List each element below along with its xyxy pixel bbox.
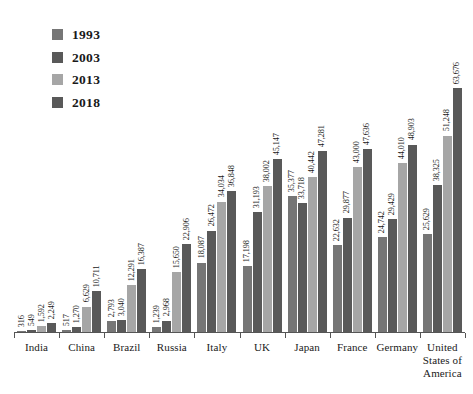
bar-japan-2013[interactable]: [308, 177, 317, 332]
x-axis-label-india: India: [14, 341, 59, 380]
x-axis-line: [14, 332, 465, 339]
bar-slot: 51,248: [443, 4, 452, 332]
bar-brazil-2013[interactable]: [127, 285, 136, 332]
x-axis-label-germany: Germany: [375, 341, 420, 380]
bar-slot: 22,632: [333, 4, 342, 332]
bar-china-2018[interactable]: [92, 291, 101, 332]
bar-value-label: 63,676: [454, 62, 462, 84]
bar-brazil-2003[interactable]: [117, 320, 126, 332]
bar-slot: 29,877: [343, 4, 352, 332]
bar-slot: 1,592: [37, 4, 46, 332]
axis-tick: [375, 333, 376, 338]
bar-slot: 63,676: [453, 4, 462, 332]
bar-slot: 549: [27, 4, 36, 332]
bar-value-label: 16,387: [138, 243, 146, 265]
bar-value-label: 31,193: [253, 186, 261, 208]
bar-slot: 40,442: [308, 4, 317, 332]
bar-value-label: 22,632: [333, 219, 341, 241]
bar-italy-1993[interactable]: [197, 263, 206, 332]
x-axis-label-uk: UK: [239, 341, 284, 380]
bar-france-2003[interactable]: [343, 218, 352, 332]
bar-value-label: 34,034: [218, 175, 226, 197]
bar-slot: 31,193: [253, 4, 262, 332]
bar-value-label: 45,147: [273, 133, 281, 155]
bar-value-label: 10,711: [93, 265, 101, 287]
bar-brazil-1993[interactable]: [107, 321, 116, 332]
bar-uk-2018[interactable]: [273, 159, 282, 332]
bar-value-label: 51,248: [444, 109, 452, 131]
bar-value-label: 517: [63, 314, 71, 326]
bar-united-states-of-america-2003[interactable]: [433, 185, 442, 332]
legend-item-2003[interactable]: 2003: [52, 51, 100, 65]
x-axis-category-labels: IndiaChinaBrazilRussiaItalyUKJapanFrance…: [14, 341, 465, 380]
legend-swatch-2003: [52, 52, 63, 63]
bar-france-1993[interactable]: [333, 245, 342, 332]
axis-tick: [240, 333, 241, 338]
bar-italy-2003[interactable]: [207, 231, 216, 332]
bar-slot: 29,429: [388, 4, 397, 332]
bar-slot: 36,848: [227, 4, 236, 332]
bar-russia-2003[interactable]: [162, 321, 171, 332]
bar-united-states-of-america-2018[interactable]: [453, 88, 462, 332]
bar-france-2013[interactable]: [353, 167, 362, 332]
bar-group: 18,08726,47234,03436,848: [194, 4, 239, 332]
bar-slot: 47,636: [363, 4, 372, 332]
bar-slot: 34,034: [217, 4, 226, 332]
bar-japan-1993[interactable]: [288, 196, 297, 332]
axis-tick: [330, 333, 331, 338]
bar-slot: 45,147: [273, 4, 282, 332]
legend-item-2018[interactable]: 2018: [52, 96, 100, 110]
bar-value-label: 2,793: [108, 299, 116, 317]
axis-tick: [59, 333, 60, 338]
bar-germany-1993[interactable]: [378, 237, 387, 332]
legend-swatch-1993: [52, 29, 63, 40]
bar-united-states-of-america-2013[interactable]: [443, 136, 452, 332]
bar-china-2013[interactable]: [82, 307, 91, 332]
bar-india-2018[interactable]: [47, 323, 56, 332]
bar-slot: 12,291: [127, 4, 136, 332]
bar-france-2018[interactable]: [363, 149, 372, 332]
axis-tick: [465, 333, 466, 338]
legend-item-label: 1993: [72, 28, 100, 42]
bar-uk-1993[interactable]: [243, 266, 252, 332]
bar-value-label: 29,429: [389, 193, 397, 215]
bar-russia-2018[interactable]: [182, 244, 191, 332]
x-axis-label-france: France: [330, 341, 375, 380]
bar-uk-2013[interactable]: [263, 186, 272, 332]
bar-slot: 17,198: [243, 4, 252, 332]
bar-uk-2003[interactable]: [253, 212, 262, 332]
bar-value-label: 3,040: [118, 298, 126, 316]
bar-russia-2013[interactable]: [172, 272, 181, 332]
bar-value-label: 44,010: [399, 137, 407, 159]
bar-value-label: 33,718: [298, 177, 306, 199]
bar-value-label: 1,239: [153, 305, 161, 323]
bar-value-label: 6,629: [83, 284, 91, 302]
bar-japan-2003[interactable]: [298, 203, 307, 332]
x-axis-label-united-states-of-america: United States of America: [420, 341, 465, 380]
axis-tick: [14, 333, 15, 338]
bar-value-label: 47,636: [363, 123, 371, 145]
bar-value-label: 15,650: [173, 246, 181, 268]
bar-brazil-2018[interactable]: [137, 269, 146, 332]
bar-united-states-of-america-1993[interactable]: [423, 234, 432, 332]
legend-item-1993[interactable]: 1993: [52, 28, 100, 42]
axis-tick: [104, 333, 105, 338]
bar-germany-2003[interactable]: [388, 219, 397, 332]
axis-tick: [285, 333, 286, 338]
bar-value-label: 22,906: [183, 218, 191, 240]
bar-value-label: 40,442: [308, 151, 316, 173]
bar-italy-2018[interactable]: [227, 191, 236, 332]
bar-germany-2013[interactable]: [398, 163, 407, 332]
bar-group: 2,7933,04012,29116,387: [104, 4, 149, 332]
bar-slot: 35,377: [288, 4, 297, 332]
bar-value-label: 38,325: [434, 159, 442, 181]
bar-slot: 43,000: [353, 4, 362, 332]
bar-italy-2013[interactable]: [217, 202, 226, 332]
bar-group: 1,2392,96815,65022,906: [149, 4, 194, 332]
bar-value-label: 2,968: [163, 298, 171, 316]
bar-value-label: 12,291: [128, 259, 136, 281]
bar-japan-2018[interactable]: [318, 151, 327, 332]
legend-item-2013[interactable]: 2013: [52, 73, 100, 87]
bar-germany-2018[interactable]: [408, 145, 417, 332]
bar-slot: 1,239: [152, 4, 161, 332]
